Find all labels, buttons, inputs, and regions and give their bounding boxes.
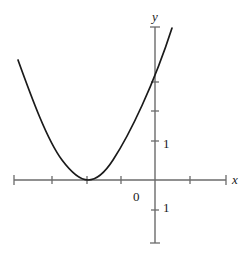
parabola-figure: y x 1 1 0	[0, 0, 251, 257]
y-axis-label: y	[152, 10, 158, 23]
y-tick-label-one-lower: 1	[163, 201, 170, 214]
parabola-curve	[18, 28, 172, 180]
x-axis-label: x	[232, 173, 238, 186]
plot-canvas	[0, 0, 251, 257]
origin-label: 0	[133, 190, 140, 203]
y-tick-label-one-upper: 1	[163, 137, 170, 150]
